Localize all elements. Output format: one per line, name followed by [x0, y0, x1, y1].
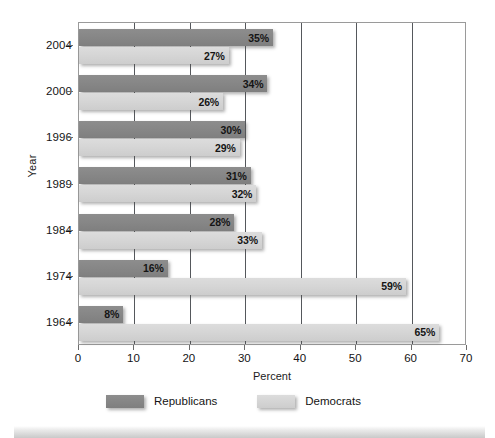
x-axis-tick-10	[133, 345, 134, 350]
x-axis-tick-70	[466, 345, 467, 350]
x-axis-tick-label-70: 70	[446, 352, 486, 364]
y-axis-tick-1996	[66, 137, 73, 138]
x-axis-tick-60	[411, 345, 412, 350]
x-axis-tick-40	[300, 345, 301, 350]
y-axis-tick-1964	[66, 322, 73, 323]
x-axis-tick-label-0: 0	[58, 352, 98, 364]
x-axis-tick-50	[355, 345, 356, 350]
legend-label-democrats: Democrats	[305, 395, 361, 407]
x-axis-tick-label-30: 30	[224, 352, 264, 364]
legend-swatch-republicans	[106, 395, 144, 408]
y-axis-tick-1984	[66, 230, 73, 231]
x-axis-tick-label-20: 20	[169, 352, 209, 364]
y-axis-tick-1974	[66, 276, 73, 277]
x-axis-tick-20	[189, 345, 190, 350]
x-axis-tick-label-10: 10	[113, 352, 153, 364]
legend-swatch-democrats	[257, 395, 295, 408]
bar-chart-figure: Year 35%27%34%26%30%29%31%32%28%33%16%59…	[0, 0, 495, 438]
legend-item-democrats: Democrats	[257, 395, 361, 408]
legend-label-republicans: Republicans	[154, 395, 217, 407]
bottom-decorative-strip	[14, 426, 485, 438]
x-axis-tick-label-50: 50	[335, 352, 375, 364]
y-axis-tick-1989	[66, 184, 73, 185]
x-axis-tick-label-40: 40	[280, 352, 320, 364]
x-axis-title: Percent	[78, 370, 466, 382]
legend-item-republicans: Republicans	[106, 395, 217, 408]
x-axis-tick-label-60: 60	[391, 352, 431, 364]
x-axis-tick-30	[244, 345, 245, 350]
chart-legend: Republicans Democrats	[78, 390, 466, 412]
x-axis-tick-0	[78, 345, 79, 350]
y-axis-tick-2000	[66, 91, 73, 92]
y-axis-tick-2004	[66, 45, 73, 46]
